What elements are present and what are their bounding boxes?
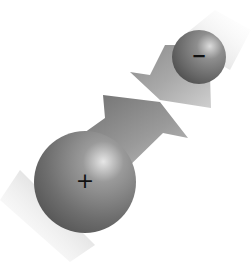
diagram-canvas	[0, 0, 251, 262]
positive-sign-label: +	[74, 170, 96, 192]
negative-sign-label: −	[190, 47, 208, 65]
charge-attraction-diagram: + −	[0, 0, 251, 262]
